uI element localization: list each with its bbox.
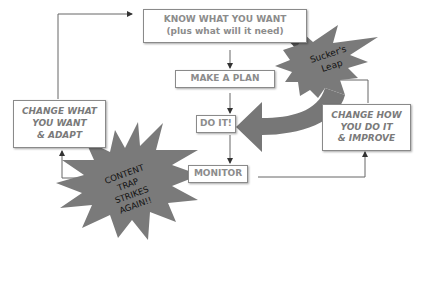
node-change-what-line2: YOU WANT — [32, 118, 87, 130]
node-know-line2: (plus what will it need) — [166, 26, 283, 38]
node-plan-label: MAKE A PLAN — [190, 73, 259, 85]
node-monitor: MONITOR — [188, 165, 248, 183]
node-change-what-line1: CHANGE WHAT — [22, 106, 97, 118]
node-change-how-line3: & IMPROVE — [338, 133, 395, 145]
node-change-how: CHANGE HOW YOU DO IT & IMPROVE — [322, 104, 411, 151]
node-change-what-line3: & ADAPT — [37, 130, 82, 142]
node-do-it: DO IT! — [196, 115, 236, 133]
node-do-label: DO IT! — [200, 118, 232, 130]
node-monitor-label: MONITOR — [194, 168, 242, 180]
node-change-what: CHANGE WHAT YOU WANT & ADAPT — [13, 100, 106, 148]
node-know-what-you-want: KNOW WHAT YOU WANT (plus what will it ne… — [143, 9, 307, 43]
node-make-a-plan: MAKE A PLAN — [175, 70, 275, 88]
node-change-how-line2: YOU DO IT — [340, 122, 392, 134]
node-change-how-line1: CHANGE HOW — [331, 110, 401, 122]
node-know-line1: KNOW WHAT YOU WANT — [164, 14, 287, 26]
